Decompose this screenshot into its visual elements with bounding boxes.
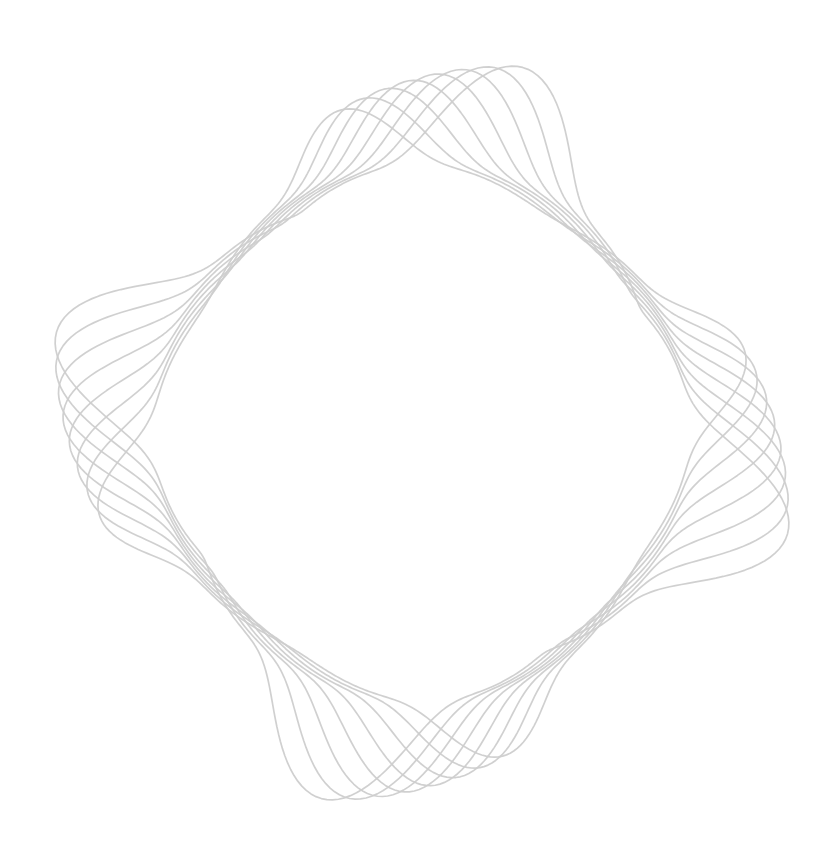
curve-group [55, 66, 789, 800]
spiro-curve [77, 88, 766, 777]
spiro-curve [55, 66, 789, 800]
spiro-curve [59, 70, 786, 797]
spiro-curve [87, 98, 757, 768]
spiro-curve [98, 109, 746, 757]
spiro-curve [63, 74, 781, 792]
spirograph-ring-graphic [0, 0, 832, 865]
spiro-curve [69, 80, 774, 785]
artwork-canvas [0, 0, 832, 865]
spiro-curve [56, 67, 788, 799]
